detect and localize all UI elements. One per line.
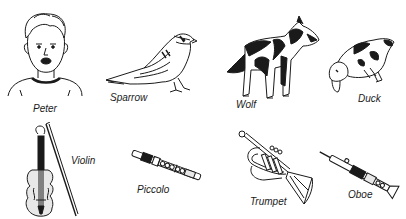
duck-label: Duck (358, 93, 381, 104)
peter-label: Peter (33, 103, 57, 114)
trumpet-icon (238, 130, 320, 206)
boy-portrait-icon (4, 8, 84, 98)
wolf-icon (225, 16, 321, 102)
piccolo-icon (128, 150, 204, 182)
violin-label: Violin (71, 155, 95, 166)
trumpet-label: Trumpet (250, 196, 287, 207)
sparrow-bird-icon (104, 28, 198, 94)
violin-icon (24, 122, 80, 218)
duck-icon (326, 36, 396, 94)
oboe-label: Oboe (348, 189, 372, 200)
piccolo-label: Piccolo (137, 184, 169, 195)
sparrow-label: Sparrow (110, 92, 147, 103)
wolf-label: Wolf (236, 99, 256, 110)
